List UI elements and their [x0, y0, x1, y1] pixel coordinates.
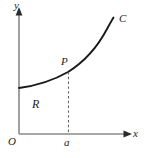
- point-label-p: P: [61, 56, 68, 67]
- x-axis-arrowhead: [124, 131, 133, 138]
- curve-label-c: C: [119, 13, 126, 24]
- y-axis-label: y: [14, 0, 19, 11]
- math-figure: y x O a R P C: [0, 0, 146, 158]
- x-axis-label: x: [133, 128, 138, 139]
- origin-label: O: [8, 136, 16, 147]
- curve-c-path: [19, 18, 114, 89]
- region-label-r: R: [32, 98, 39, 110]
- x-tick-label-a: a: [64, 137, 70, 148]
